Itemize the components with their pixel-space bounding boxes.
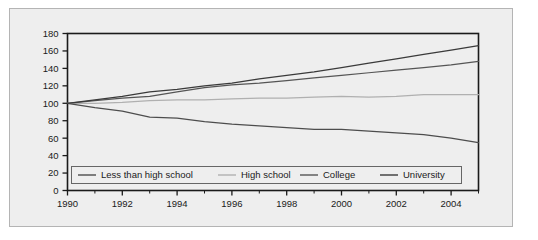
x-axis-tick-label: 2002	[386, 198, 407, 209]
x-axis-tick-labels: 19901992199419961998200020022004	[57, 198, 462, 209]
y-axis-tick-label: 180	[43, 28, 59, 39]
y-axis-tick-labels: 020406080100120140160180	[43, 28, 59, 196]
y-axis-tick-label: 160	[43, 45, 59, 56]
series-line	[68, 95, 479, 104]
y-axis-tick-label: 40	[48, 150, 59, 161]
x-axis-tick-label: 2004	[441, 198, 462, 209]
x-axis-tick-label: 1998	[276, 198, 297, 209]
y-axis-tick-label: 100	[43, 98, 59, 109]
y-axis-tick-label: 20	[48, 167, 59, 178]
y-axis-tick-label: 140	[43, 63, 59, 74]
x-axis-tick-label: 1996	[221, 198, 242, 209]
legend-box: Less than high schoolHigh schoolCollegeU…	[72, 167, 462, 184]
y-axis-tick-label: 0	[53, 185, 58, 196]
x-axis-tick-label: 2000	[331, 198, 352, 209]
y-axis-tick-label: 60	[48, 133, 59, 144]
x-axis-tick-label: 1994	[167, 198, 188, 209]
x-axis-tick-label: 1992	[112, 198, 133, 209]
legend-label: Less than high school	[101, 169, 193, 180]
series-line	[68, 61, 479, 103]
y-axis-tick-label: 120	[43, 80, 59, 91]
x-axis-tick-label: 1990	[57, 198, 78, 209]
line-chart: 020406080100120140160180 199019921994199…	[0, 0, 538, 240]
legend-label: High school	[241, 169, 291, 180]
chart-figure: 020406080100120140160180 199019921994199…	[0, 0, 538, 240]
y-axis-tick-label: 80	[48, 115, 59, 126]
legend-label: College	[323, 169, 355, 180]
legend-label: University	[403, 169, 445, 180]
series-line	[68, 103, 479, 142]
data-series-group	[68, 46, 479, 143]
